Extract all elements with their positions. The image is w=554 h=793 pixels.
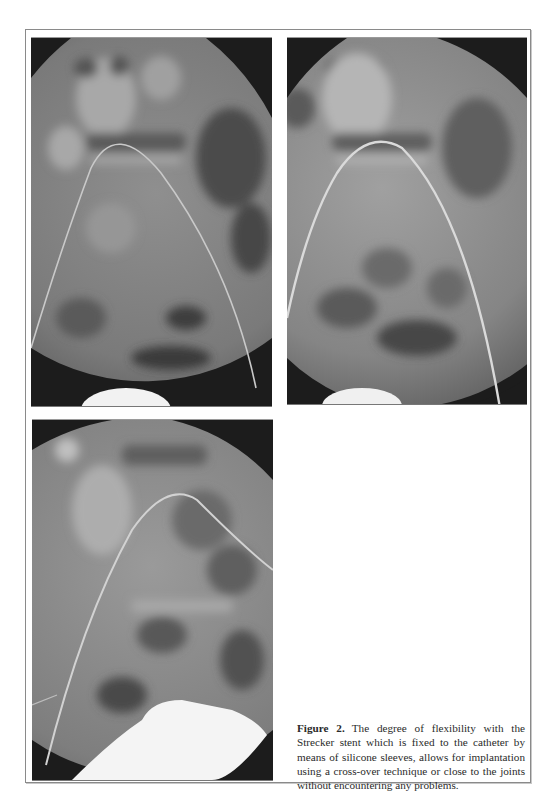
xray-image-b	[287, 38, 527, 404]
xray-image-a	[31, 38, 272, 406]
xray-panel-b	[287, 37, 527, 405]
figure-label: Figure 2.	[297, 722, 345, 734]
xray-image-c	[32, 420, 273, 780]
xray-panel-a	[31, 37, 272, 407]
xray-panel-c	[32, 419, 273, 781]
figure-caption: Figure 2.The degree of flexibility with …	[297, 721, 525, 792]
